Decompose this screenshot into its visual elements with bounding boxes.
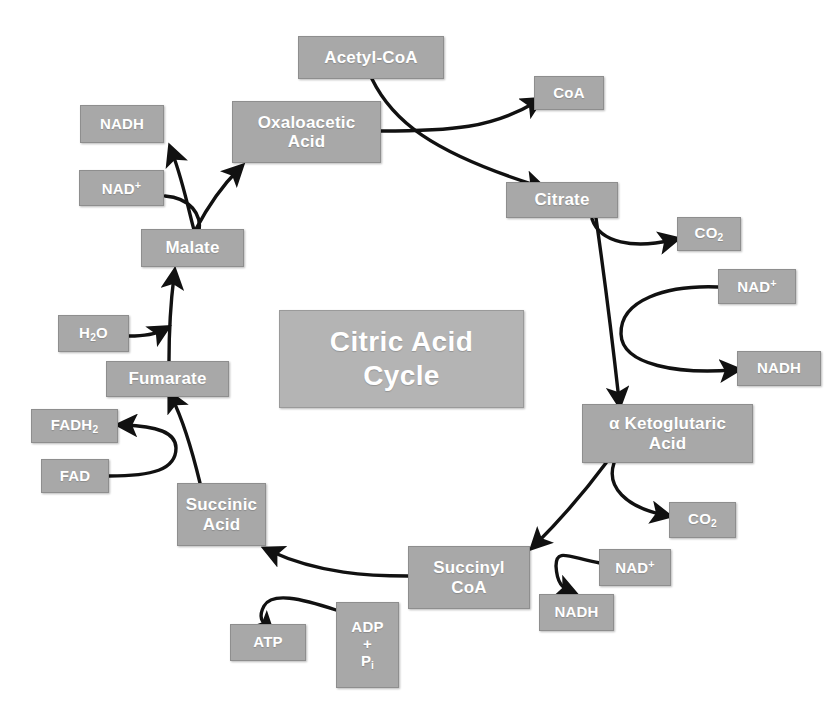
node-label-nadh: NADH	[100, 116, 144, 133]
node-succinyl-coa: Succinyl CoA	[408, 546, 530, 609]
node-label-citrate: Citrate	[534, 190, 589, 209]
line-1: ADP	[351, 619, 383, 636]
node-nad-plus-succinyl: NAD+	[599, 549, 671, 586]
node-label-coa: CoA	[553, 85, 584, 102]
line-1: Succinic	[186, 495, 258, 514]
edge-citrate-to-co2	[592, 219, 672, 244]
line-2: Cycle	[330, 359, 473, 393]
node-alpha-ketoglutaric-acid: α Ketoglutaric Acid	[582, 404, 753, 463]
node-label-nadh: NADH	[554, 604, 598, 621]
edge-fad-to-fadh2	[109, 425, 176, 476]
line-2: CoA	[433, 578, 505, 597]
edge-citrate-to-ketoglutaric	[596, 218, 619, 400]
line-1: Oxaloacetic	[258, 113, 356, 132]
edge-succinylcoa-to-succinic	[270, 551, 408, 576]
node-co2-succinyl: CO2	[669, 502, 736, 538]
node-fumarate: Fumarate	[106, 361, 229, 397]
node-label-nad-plus: NAD+	[737, 277, 777, 295]
node-nadh-malate: NADH	[80, 105, 164, 143]
edge-malate-to-oxaloacetic	[196, 170, 238, 229]
node-citrate: Citrate	[506, 182, 618, 218]
edge-ketoglutaric-to-succinylcoa	[536, 463, 606, 544]
node-label-fadh2: FADH2	[51, 417, 99, 435]
node-label-adp-plus-pi: ADP + Pi	[351, 619, 383, 671]
node-label-acetyl-coa: Acetyl-CoA	[324, 48, 418, 67]
center-title-text: Citric Acid Cycle	[330, 325, 473, 393]
node-label-oxaloacetic-acid: Oxaloacetic Acid	[258, 113, 356, 151]
node-label-nad-plus: NAD+	[102, 179, 142, 197]
edge-fumarate-to-malate	[169, 276, 174, 361]
node-adp-plus-pi: ADP + Pi	[336, 602, 399, 688]
edge-nad-to-nadh-succinyl	[556, 555, 600, 591]
node-label-co2: CO2	[688, 511, 717, 529]
line-2: +	[351, 636, 383, 653]
node-label-nadh: NADH	[757, 360, 801, 377]
line-2: Acid	[186, 515, 258, 534]
node-label-malate: Malate	[165, 238, 219, 257]
line-2: Acid	[609, 434, 726, 453]
node-nadh-succinyl: NADH	[539, 594, 614, 631]
node-co2-isocitrate: CO2	[677, 217, 741, 251]
edge-oxaloacetic-to-coa	[381, 102, 536, 131]
node-label-succinic-acid: Succinic Acid	[186, 495, 258, 533]
node-oxaloacetic-acid: Oxaloacetic Acid	[232, 101, 381, 163]
edge-nad-to-nadh-ketoglutarate	[621, 287, 733, 371]
line-1: Citric Acid	[330, 325, 473, 359]
node-label-atp: ATP	[253, 634, 283, 651]
node-nad-plus-ketoglutarate: NAD+	[718, 269, 796, 304]
node-nad-plus-malate: NAD+	[79, 170, 164, 206]
line-3: Pi	[351, 653, 383, 671]
node-label-h2o: H2O	[79, 325, 108, 343]
node-fad: FAD	[41, 459, 109, 493]
diagram-center-title: Citric Acid Cycle	[279, 310, 524, 408]
node-label-nad-plus: NAD+	[615, 558, 655, 576]
edge-nad-to-nadh-malate	[165, 152, 199, 236]
line-2: Acid	[258, 132, 356, 151]
node-label-alpha-ketoglutaric-acid: α Ketoglutaric Acid	[609, 414, 726, 452]
node-label-co2: CO2	[695, 225, 724, 243]
edge-acetylcoa-to-citrate	[372, 79, 538, 186]
node-nadh-ketoglutarate: NADH	[737, 351, 821, 386]
node-succinic-acid: Succinic Acid	[177, 483, 266, 546]
node-h2o: H2O	[58, 315, 129, 352]
node-fadh2: FADH2	[31, 409, 118, 443]
edge-ketoglutaric-to-co2	[612, 463, 664, 515]
line-1: Succinyl	[433, 558, 505, 577]
node-label-fad: FAD	[60, 468, 91, 485]
edge-succinic-to-fumarate	[172, 398, 200, 483]
node-label-succinyl-coa: Succinyl CoA	[433, 558, 505, 596]
node-coa: CoA	[534, 76, 604, 110]
node-acetyl-coa: Acetyl-CoA	[298, 36, 444, 79]
citric-acid-cycle-diagram: Acetyl-CoA Oxaloacetic Acid CoA Citrate …	[0, 0, 836, 721]
node-label-fumarate: Fumarate	[128, 369, 206, 388]
line-1: α Ketoglutaric	[609, 414, 726, 433]
node-malate: Malate	[141, 229, 244, 267]
node-atp: ATP	[230, 624, 306, 661]
edge-h2o-to-malate	[129, 330, 163, 336]
